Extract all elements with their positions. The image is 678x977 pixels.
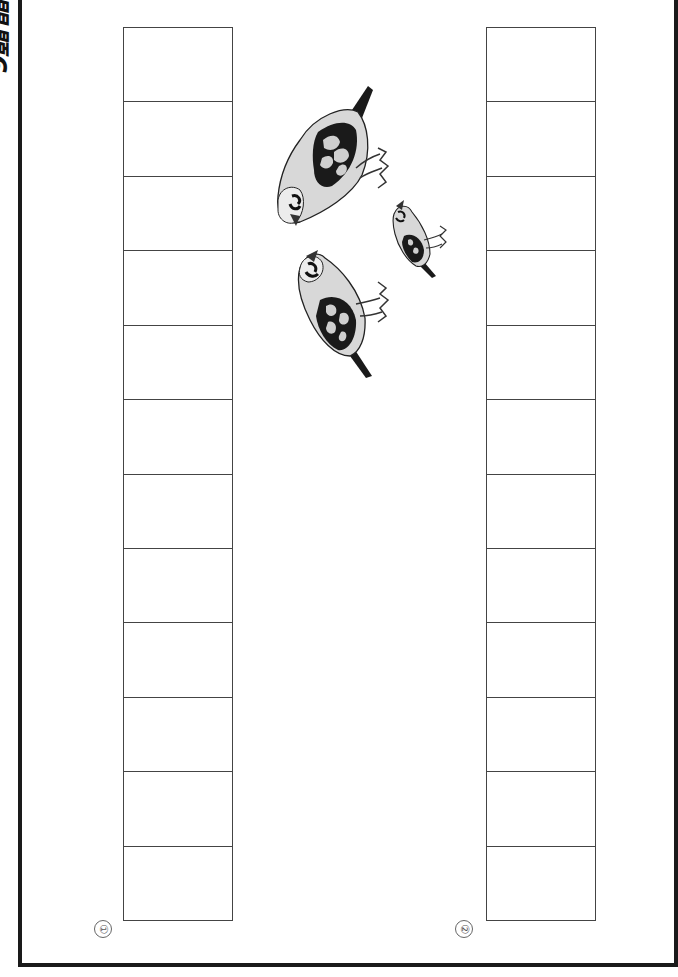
answer-cell[interactable] [487, 623, 595, 697]
header-title-text: 問題6 [0, 0, 18, 75]
answer-cell[interactable] [124, 326, 232, 400]
header-title: 問題6 [0, 0, 18, 118]
answer-cell[interactable] [487, 847, 595, 920]
sparrow-chick-icon [393, 200, 446, 278]
answer-cell[interactable] [124, 772, 232, 846]
answer-cell[interactable] [124, 400, 232, 474]
answer-grid-1 [123, 27, 233, 921]
answer-cell[interactable] [487, 102, 595, 176]
answer-grid-2 [486, 27, 596, 921]
question-number-2: ② [455, 920, 473, 938]
answer-cell[interactable] [124, 251, 232, 325]
answer-cell[interactable] [124, 698, 232, 772]
answer-cell[interactable] [487, 28, 595, 102]
answer-cell[interactable] [487, 549, 595, 623]
sparrow-adult-1-icon [278, 86, 388, 226]
bird-illustration-icon [265, 80, 465, 390]
answer-cell[interactable] [487, 400, 595, 474]
answer-cell[interactable] [487, 251, 595, 325]
answer-cell[interactable] [487, 177, 595, 251]
answer-cell[interactable] [124, 102, 232, 176]
answer-cell[interactable] [487, 772, 595, 846]
answer-cell[interactable] [487, 475, 595, 549]
question-number-1: ① [94, 920, 112, 938]
answer-cell[interactable] [124, 28, 232, 102]
answer-cell[interactable] [124, 549, 232, 623]
answer-cell[interactable] [124, 177, 232, 251]
answer-cell[interactable] [487, 326, 595, 400]
sparrow-adult-2-icon [298, 250, 388, 378]
answer-cell[interactable] [124, 475, 232, 549]
answer-cell[interactable] [124, 847, 232, 920]
answer-cell[interactable] [124, 623, 232, 697]
answer-cell[interactable] [487, 698, 595, 772]
